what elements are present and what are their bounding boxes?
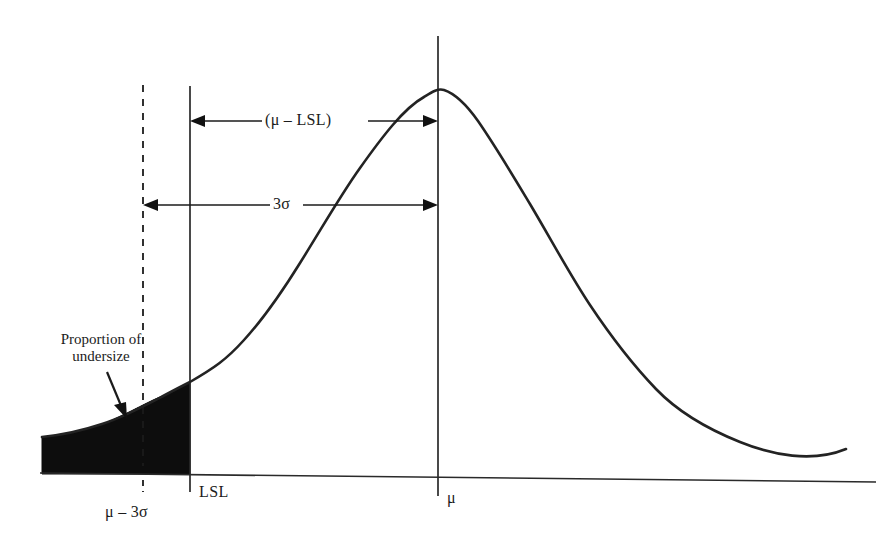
dimension-three-sigma bbox=[143, 199, 438, 211]
annotation-line-2: undersize bbox=[47, 348, 155, 365]
axis-label-mu: μ bbox=[447, 489, 456, 507]
dimension-label-mu-minus-lsl: (μ – LSL) bbox=[265, 111, 331, 129]
axis-label-lsl: LSL bbox=[199, 483, 229, 501]
proportion-pointer-shaft bbox=[107, 372, 122, 408]
arrowhead-left-icon bbox=[143, 199, 158, 211]
baseline-axis bbox=[40, 473, 876, 482]
arrowhead-left-icon bbox=[190, 115, 205, 127]
arrowhead-right-icon bbox=[423, 115, 438, 127]
distribution-curve-svg bbox=[0, 0, 894, 551]
dimension-label-three-sigma: 3σ bbox=[273, 195, 290, 213]
annotation-line-1: Proportion of bbox=[61, 331, 141, 347]
annotation-proportion-of-undersize: Proportion of undersize bbox=[47, 331, 155, 365]
axis-label-mu-minus-3sigma: μ – 3σ bbox=[105, 503, 148, 521]
arrowhead-right-icon bbox=[423, 199, 438, 211]
proportion-pointer bbox=[107, 372, 127, 419]
capability-diagram: (μ – LSL) 3σ Proportion of undersize LSL… bbox=[0, 0, 894, 551]
